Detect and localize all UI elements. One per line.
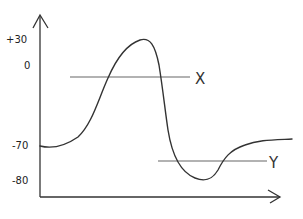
threshold-x: X: [70, 70, 205, 88]
threshold-y-label: Y: [268, 154, 279, 172]
tick-label-0: 0: [24, 60, 30, 71]
diagram-canvas: +30 0 -70 -80 X Y: [0, 0, 303, 219]
tick-label-minus70: -70: [12, 140, 28, 151]
y-axis: [33, 15, 48, 197]
response-curve: [40, 39, 292, 180]
tick-label-plus30: +30: [6, 34, 27, 45]
tick-label-minus80: -80: [12, 175, 28, 186]
x-axis: [40, 190, 280, 203]
threshold-x-label: X: [195, 70, 205, 88]
y-axis-tick-labels: +30 0 -70 -80: [6, 34, 30, 186]
